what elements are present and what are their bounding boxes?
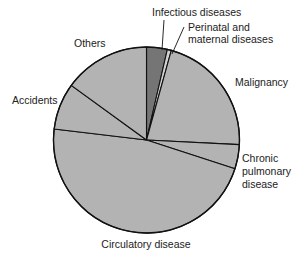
label-infectious: Infectious diseases bbox=[152, 6, 241, 18]
label-others: Others bbox=[74, 37, 106, 49]
pie-slices bbox=[54, 47, 240, 233]
label-malignancy: Malignancy bbox=[235, 76, 289, 88]
label-perinatal-line1: Perinatal and bbox=[188, 21, 250, 33]
label-accidents: Accidents bbox=[12, 94, 58, 106]
pie-chart: Infectious diseases Perinatal and matern… bbox=[0, 0, 295, 256]
label-chronic-line2: pulmonary bbox=[242, 165, 292, 177]
label-chronic-line1: Chronic bbox=[242, 152, 278, 164]
leader-line-perinatal bbox=[172, 27, 184, 54]
leader-line-infectious bbox=[162, 20, 164, 50]
label-chronic-line3: disease bbox=[242, 178, 278, 190]
label-circulatory: Circulatory disease bbox=[101, 238, 190, 250]
label-perinatal-line2: maternal diseases bbox=[188, 33, 273, 45]
